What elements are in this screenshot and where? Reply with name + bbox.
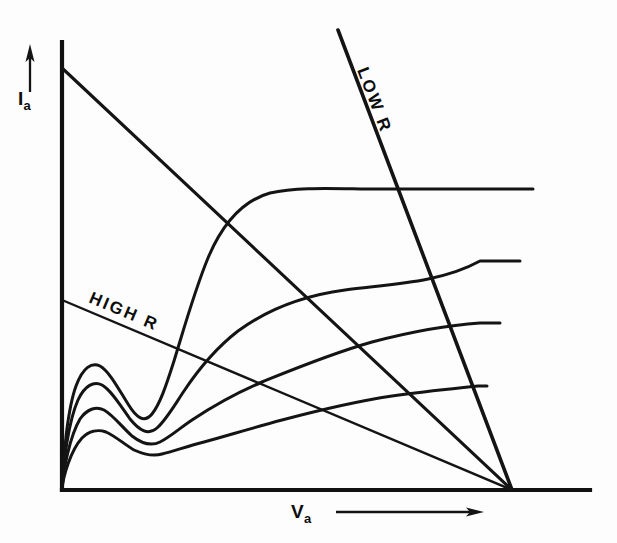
axes-group — [62, 42, 590, 490]
x-axis-label-sub: a — [304, 511, 312, 526]
low-r-label: LOW R — [353, 65, 395, 136]
load-line-high-r — [62, 300, 512, 490]
load-line-middle — [62, 68, 512, 490]
characteristic-curve-2 — [62, 261, 520, 490]
x-axis-caption-group: Va — [291, 501, 484, 526]
y-axis-label-sub: a — [23, 98, 31, 113]
characteristic-curve-plot: Ia Va LOW R HIGH R — [0, 0, 617, 543]
low-r-annotation: LOW R — [353, 65, 395, 136]
x-axis-label-main: V — [291, 501, 304, 522]
high-r-annotation: HIGH R — [86, 288, 161, 334]
x-axis-label: Va — [291, 501, 312, 526]
characteristic-curve-3 — [62, 323, 500, 490]
high-r-label: HIGH R — [86, 288, 161, 334]
load-lines-group — [62, 30, 512, 490]
figure-canvas: Ia Va LOW R HIGH R — [0, 0, 617, 543]
y-axis-caption-group: Ia — [18, 44, 35, 113]
